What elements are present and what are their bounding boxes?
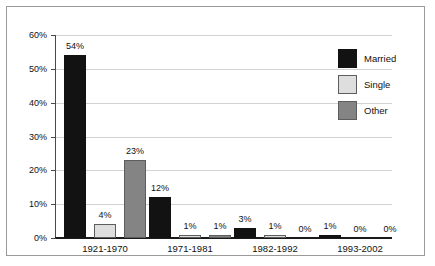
gridline: [55, 35, 392, 36]
y-axis-tick: [51, 238, 56, 239]
y-axis-label: 0%: [7, 234, 47, 243]
bar-value-label: 1%: [258, 222, 292, 231]
y-axis-tick: [51, 35, 56, 36]
legend-swatch-icon: [338, 101, 357, 120]
y-axis-label: 50%: [7, 65, 47, 74]
y-axis-label: 20%: [7, 166, 47, 175]
x-axis-category-label: 1993-2002: [305, 243, 415, 254]
y-axis-label: 10%: [7, 200, 47, 209]
bar-single-1982-1992: [264, 235, 286, 238]
bar-married-1993-2002: [319, 235, 341, 238]
legend-label: Married: [364, 53, 396, 64]
bar-value-label: 1%: [173, 222, 207, 231]
gridline: [55, 137, 392, 138]
bar-married-1921-1970: [64, 55, 86, 238]
bar-single-1971-1981: [179, 235, 201, 238]
bar-other-1921-1970: [124, 160, 146, 238]
y-axis-label: 40%: [7, 99, 47, 108]
legend-item-married[interactable]: Married: [338, 45, 396, 71]
bar-single-1921-1970: [94, 224, 116, 238]
chart-frame: 0%10%20%30%40%50%60% 54%4%23%12%1%1%3%1%…: [6, 6, 425, 256]
legend-label: Single: [364, 79, 390, 90]
bar-value-label: 0%: [373, 225, 407, 234]
bar-married-1971-1981: [149, 197, 171, 238]
y-axis-tick: [51, 69, 56, 70]
legend-item-other[interactable]: Other: [338, 97, 396, 123]
legend-swatch-icon: [338, 49, 357, 68]
bar-value-label: 23%: [118, 147, 152, 156]
y-axis-tick: [51, 137, 56, 138]
legend-swatch-icon: [338, 75, 357, 94]
bar-value-label: 54%: [58, 42, 92, 51]
bar-married-1982-1992: [234, 228, 256, 238]
gridline: [55, 170, 392, 171]
y-axis-tick: [51, 204, 56, 205]
y-axis-label: 60%: [7, 31, 47, 40]
bar-value-label: 3%: [228, 215, 262, 224]
y-axis-tick: [51, 170, 56, 171]
bar-other-1971-1981: [209, 235, 231, 238]
legend: MarriedSingleOther: [338, 45, 396, 123]
bar-value-label: 4%: [88, 211, 122, 220]
y-axis-tick: [51, 103, 56, 104]
y-axis-label: 30%: [7, 133, 47, 142]
bar-value-label: 12%: [143, 184, 177, 193]
legend-item-single[interactable]: Single: [338, 71, 396, 97]
legend-label: Other: [364, 105, 388, 116]
bar-value-label: 1%: [313, 222, 347, 231]
bar-value-label: 0%: [343, 225, 377, 234]
gridline: [55, 204, 392, 205]
